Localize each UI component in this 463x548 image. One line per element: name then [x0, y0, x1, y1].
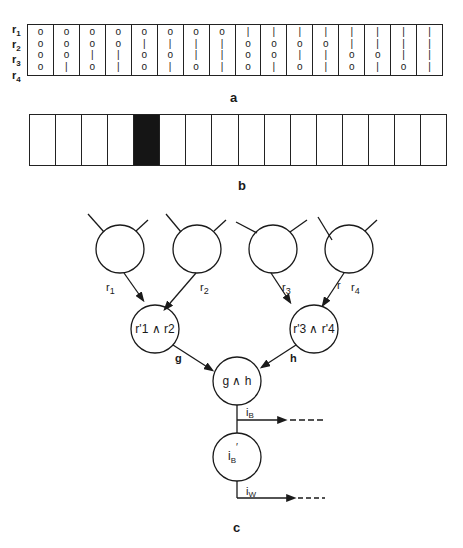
input-neuron-1 [88, 214, 148, 273]
node-right-label: r'3 ∧ r'4 [293, 322, 335, 336]
edge-label-h: h [290, 352, 297, 364]
edge-label-r1: r1 [106, 281, 115, 296]
input-neuron-4 [318, 217, 377, 273]
caption-c: c [233, 520, 240, 535]
root-label: g ∧ h [222, 374, 251, 388]
inverter-label: iB′ [228, 442, 238, 465]
input-neuron-2 [166, 214, 226, 273]
node-left-label: r'1 ∧ r2 [135, 322, 175, 336]
edge-label-r-prime: r [337, 279, 341, 291]
inverter-node [213, 433, 261, 481]
input-neuron-3 [236, 220, 307, 273]
edge-label-r3: r3 [282, 281, 291, 296]
output-label-ib: iB [246, 406, 254, 420]
edge-label-r2: r2 [200, 281, 209, 296]
output-label-iw: iW [246, 485, 256, 499]
edge-label-r4: r4 [351, 281, 360, 296]
edge-label-g: g [175, 352, 182, 364]
logic-tree: r1 r2 r3 r r4 r'1 ∧ r2 r'3 ∧ r'4 g h g ∧… [0, 0, 463, 548]
